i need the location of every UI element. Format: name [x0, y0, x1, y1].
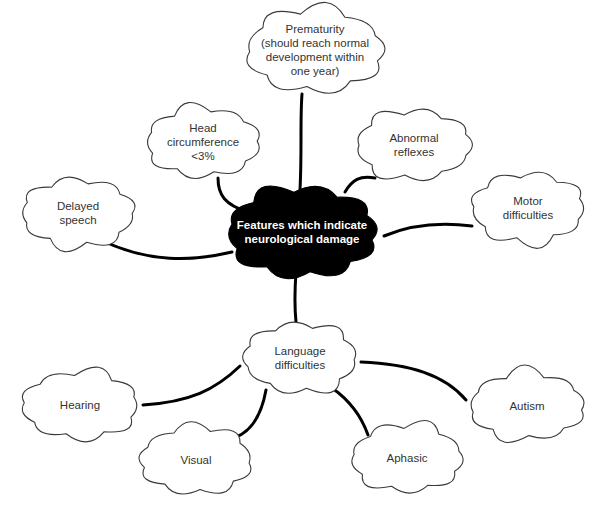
- node-label-abnormal-reflexes: Abnormal reflexes: [389, 131, 438, 159]
- node-label-language-difficulties: Language difficulties: [274, 344, 325, 372]
- node-label-aphasic: Aphasic: [387, 451, 428, 465]
- central-node-label: Features which indicate neurological dam…: [237, 218, 367, 246]
- node-label-hearing: Hearing: [60, 398, 100, 412]
- mind-map-canvas: Features which indicate neurological dam…: [0, 0, 606, 511]
- node-label-prematurity: Prematurity (should reach normal develop…: [261, 22, 369, 78]
- node-label-visual: Visual: [180, 453, 211, 467]
- node-label-head-circumference: Head circumference <3%: [167, 121, 239, 163]
- node-label-delayed-speech: Delayed speech: [57, 199, 99, 227]
- node-label-autism: Autism: [509, 399, 544, 413]
- node-label-motor-difficulties: Motor difficulties: [503, 194, 553, 222]
